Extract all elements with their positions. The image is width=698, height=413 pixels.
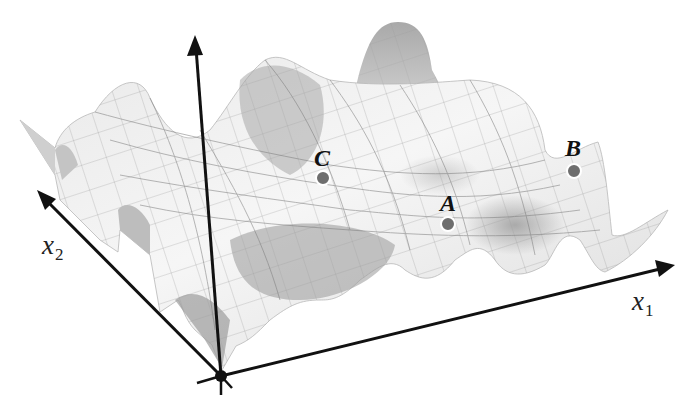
point-c-label: C xyxy=(314,146,330,170)
x1-axis-subscript: 1 xyxy=(645,301,654,320)
x2-axis-label: x2 xyxy=(42,232,63,263)
surface-body xyxy=(20,57,668,370)
x2-axis-name: x xyxy=(42,230,54,260)
point-b-label: B xyxy=(565,136,581,160)
point-b-marker xyxy=(567,164,581,178)
origin-point xyxy=(215,370,227,382)
point-c-marker xyxy=(316,171,330,185)
x1-axis-label: x1 xyxy=(632,288,653,319)
point-a-marker xyxy=(441,217,455,231)
surface-back-peak xyxy=(355,22,440,90)
x1-axis-arrowhead xyxy=(655,260,675,277)
x2-axis-subscript: 2 xyxy=(55,245,64,264)
vertical-axis-arrowhead xyxy=(187,35,203,56)
surface-plot xyxy=(0,0,698,413)
point-a-label: A xyxy=(440,191,456,215)
x1-axis-name: x xyxy=(632,286,644,316)
